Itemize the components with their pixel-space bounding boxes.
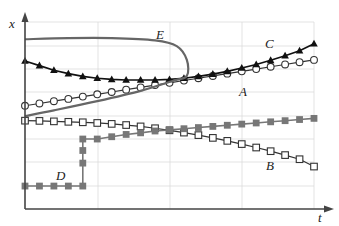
series-d-marker <box>296 116 303 123</box>
series-label-b: B <box>266 158 274 173</box>
series-d-marker <box>209 123 216 130</box>
series-a-marker <box>94 91 101 98</box>
series-d-marker <box>36 183 43 190</box>
series-label-a: A <box>238 84 247 99</box>
series-b-marker <box>210 135 217 142</box>
series-b-marker <box>137 123 144 130</box>
line-chart: x t A B C D E <box>0 0 339 226</box>
series-label-e: E <box>155 27 164 42</box>
series-d-marker <box>79 147 86 154</box>
series-label-d: D <box>55 168 66 183</box>
series-b-marker <box>224 138 231 145</box>
series-d-marker <box>224 122 231 129</box>
series-a-marker <box>108 89 115 96</box>
series-d-marker <box>311 115 318 122</box>
axes <box>22 12 335 213</box>
series-b-marker <box>51 118 58 125</box>
x-axis-arrow-icon <box>324 206 334 213</box>
series-b-marker <box>253 144 260 151</box>
series-a-marker <box>123 86 130 93</box>
series-b-marker <box>311 163 318 170</box>
series-d-marker <box>166 126 173 133</box>
series-c-marker <box>310 40 318 47</box>
series-a-marker <box>282 61 289 68</box>
series-d-marker <box>238 121 245 128</box>
series-b-marker <box>123 122 130 129</box>
series-d-marker <box>181 125 188 132</box>
y-axis-label: x <box>8 16 15 31</box>
series-b-marker <box>65 119 72 126</box>
y-axis-arrow-icon <box>22 12 29 22</box>
series-a-marker <box>51 98 58 105</box>
series-a-marker <box>65 95 72 102</box>
series-b-marker <box>80 119 87 126</box>
series-d-marker <box>253 120 260 127</box>
series-d-marker <box>195 124 202 131</box>
series-label-c: C <box>265 36 274 51</box>
series-b-marker <box>108 121 115 128</box>
series-b-marker <box>238 141 245 148</box>
series-b-marker <box>282 152 289 159</box>
series-b-marker <box>36 118 43 125</box>
series-d-marker <box>282 117 289 124</box>
series-b-marker <box>94 120 101 127</box>
series-d-marker <box>108 133 115 140</box>
series-d-marker <box>79 160 86 167</box>
series-a-marker <box>79 93 86 100</box>
series-a-marker <box>311 56 318 63</box>
series-d-marker <box>94 136 101 143</box>
series-d-marker <box>267 118 274 125</box>
series-d-marker <box>137 129 144 136</box>
series-a-marker <box>267 63 274 70</box>
series-d-marker <box>123 131 130 138</box>
series-b-marker <box>267 148 274 155</box>
series-d-marker <box>79 136 86 143</box>
series-d-marker <box>51 183 58 190</box>
series-b-marker <box>296 156 303 163</box>
series-b-marker <box>195 132 202 139</box>
series-d-marker <box>65 183 72 190</box>
series-d-marker <box>79 183 86 190</box>
series-a-marker <box>296 59 303 66</box>
x-axis-label: t <box>318 210 322 225</box>
series-e-line <box>25 38 188 116</box>
series-a-marker <box>36 100 43 107</box>
series-d-marker <box>152 128 159 135</box>
